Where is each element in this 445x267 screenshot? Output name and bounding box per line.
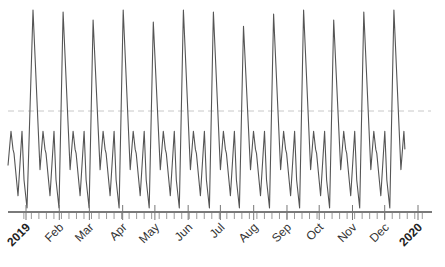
data-line	[8, 10, 405, 208]
x-tick-label: 2020	[396, 220, 425, 249]
x-tick-label: 2019	[4, 220, 33, 249]
x-tick-label: May	[136, 220, 162, 246]
x-tick-label: Dec	[367, 220, 392, 245]
x-tick-label: Jun	[172, 220, 196, 244]
x-tick-label: Mar	[72, 220, 97, 245]
x-axis: 2019FebMarAprMayJunJulAugSepOctNovDec202…	[4, 205, 432, 249]
x-tick-label: Jul	[207, 220, 228, 241]
x-tick-label: Apr	[107, 220, 130, 243]
x-tick-label: Aug	[236, 220, 261, 245]
x-tick-label: Nov	[335, 220, 360, 245]
x-axis-labels: 2019FebMarAprMayJunJulAugSepOctNovDec202…	[4, 220, 425, 249]
line-chart: 2019FebMarAprMayJunJulAugSepOctNovDec202…	[0, 0, 445, 267]
x-tick-label: Oct	[303, 220, 327, 244]
x-tick-label: Feb	[42, 220, 67, 245]
x-tick-label: Sep	[269, 220, 294, 245]
